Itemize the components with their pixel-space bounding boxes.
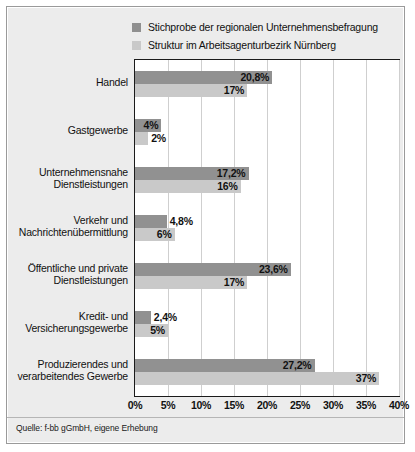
bar-struktur: 37%: [135, 372, 379, 385]
bar-rect: [135, 215, 167, 228]
x-tick-label: 35%: [356, 399, 376, 411]
legend-swatch-light-icon: [132, 41, 141, 50]
bar-row: 27,2%37%: [135, 348, 399, 396]
bar-struktur: 17%: [135, 276, 247, 289]
bar-row: 20,8%17%: [135, 60, 399, 108]
category-label: Gastgewerbe: [15, 124, 128, 137]
bar-row: 2,4%5%: [135, 300, 399, 348]
legend-label-struktur: Struktur im Arbeitsagenturbezirk Nürnber…: [148, 39, 336, 51]
category-label: Verkehr undNachrichtenübermittlung: [15, 214, 128, 239]
bar-value-label: 4%: [144, 119, 159, 132]
bar-stichprobe: 2,4%: [135, 311, 151, 324]
bar-rect: [135, 132, 148, 145]
bar-value-label: 20,8%: [240, 71, 269, 84]
category-label: Öffentliche und privateDienstleistungen: [15, 262, 128, 287]
bar-value-label: 37%: [356, 372, 376, 385]
category-label: Produzierendes undverarbeitendes Gewerbe: [15, 358, 128, 383]
bar-row: 23,6%17%: [135, 252, 399, 300]
bar-stichprobe: 27,2%: [135, 359, 315, 372]
category-label: Handel: [15, 76, 128, 89]
x-axis-ticks: 0%5%10%15%20%25%30%35%40%: [134, 399, 400, 415]
category-axis-labels: HandelGastgewerbeUnternehmensnaheDienstl…: [15, 59, 128, 395]
bar-value-label: 17%: [224, 84, 244, 97]
bar-row: 17,2%16%: [135, 156, 399, 204]
bar-stichprobe: 20,8%: [135, 71, 272, 84]
bar-struktur: 2%: [135, 132, 148, 145]
x-tick-label: 5%: [161, 399, 176, 411]
x-tick-label: 25%: [290, 399, 310, 411]
chart-legend: Stichprobe der regionalen Unternehmensbe…: [132, 19, 402, 55]
bar-rect: [135, 311, 151, 324]
x-tick-label: 15%: [224, 399, 244, 411]
bar-row: 4,8%6%: [135, 204, 399, 252]
bar-rect: [135, 372, 379, 385]
bar-rows: 20,8%17%4%2%17,2%16%4,8%6%23,6%17%2,4%5%…: [135, 60, 399, 396]
bar-stichprobe: 4,8%: [135, 215, 167, 228]
x-tick-label: 40%: [389, 399, 409, 411]
bar-stichprobe: 17,2%: [135, 167, 249, 180]
legend-item-struktur: Struktur im Arbeitsagenturbezirk Nürnber…: [132, 37, 402, 53]
category-label: Kredit- undVersicherungsgewerbe: [15, 310, 128, 335]
x-tick-label: 0%: [128, 399, 143, 411]
bar-stichprobe: 23,6%: [135, 263, 291, 276]
source-note: Quelle: f-bb gGmbH, eigene Erhebung: [16, 423, 158, 433]
bar-value-label: 17%: [224, 276, 244, 289]
bar-value-label: 16%: [217, 180, 237, 193]
chart-figure: Stichprobe der regionalen Unternehmensbe…: [6, 6, 405, 444]
bar-struktur: 17%: [135, 84, 247, 97]
bar-struktur: 16%: [135, 180, 241, 193]
x-tick-label: 10%: [191, 399, 211, 411]
source-divider: [7, 417, 404, 418]
bar-struktur: 5%: [135, 324, 168, 337]
x-tick-label: 20%: [257, 399, 277, 411]
bar-value-label: 23,6%: [259, 263, 288, 276]
bar-value-label: 2%: [151, 132, 166, 145]
bar-value-label: 5%: [150, 324, 165, 337]
gridline: [399, 60, 400, 396]
bar-stichprobe: 4%: [135, 119, 161, 132]
legend-swatch-dark-icon: [132, 23, 141, 32]
bar-value-label: 27,2%: [283, 359, 312, 372]
bar-struktur: 6%: [135, 228, 175, 241]
legend-label-stichprobe: Stichprobe der regionalen Unternehmensbe…: [148, 21, 378, 33]
bar-value-label: 2,4%: [154, 311, 177, 324]
category-label: UnternehmensnaheDienstleistungen: [15, 166, 128, 191]
plot-area: 20,8%17%4%2%17,2%16%4,8%6%23,6%17%2,4%5%…: [134, 59, 400, 397]
bar-value-label: 4,8%: [170, 215, 193, 228]
bar-value-label: 17,2%: [217, 167, 246, 180]
bar-value-label: 6%: [157, 228, 172, 241]
bar-row: 4%2%: [135, 108, 399, 156]
legend-item-stichprobe: Stichprobe der regionalen Unternehmensbe…: [132, 19, 402, 35]
x-tick-label: 30%: [323, 399, 343, 411]
